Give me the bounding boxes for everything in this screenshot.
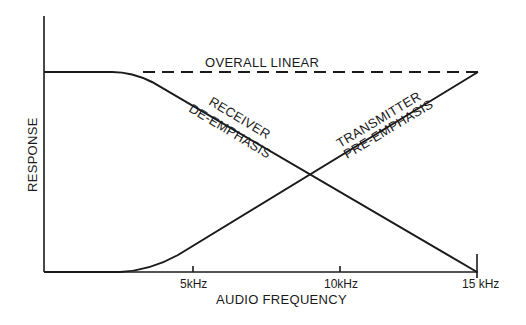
y-axis-label: RESPONSE [25,117,40,192]
tick-label-5khz: 5kHz [180,277,207,291]
emphasis-diagram: OVERALL LINEAR RECEIVER DE-EMPHASIS TRAN… [0,0,526,325]
tick-label-10khz: 10kHz [324,277,358,291]
overall-linear-label: OVERALL LINEAR [205,55,319,70]
x-axis-label: AUDIO FREQUENCY [216,292,347,307]
tick-label-15khz: 15 kHz [462,277,499,291]
